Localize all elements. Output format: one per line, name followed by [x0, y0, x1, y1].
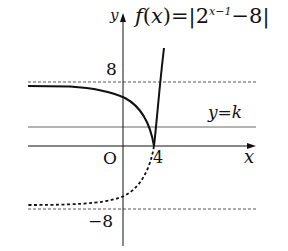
- origin-label: O: [103, 150, 117, 167]
- func-arg: x: [151, 4, 163, 28]
- y-axis-label: y: [110, 8, 118, 23]
- tick-y-neg8: −8: [88, 213, 113, 230]
- line-label-y-equals-k: y=k: [208, 104, 242, 121]
- function-graph: y f(x)=|2x−1−8| 8 y=k O 4 x −8: [0, 0, 288, 251]
- curve-right-branch: [154, 48, 164, 146]
- x-axis-label: x: [244, 148, 254, 166]
- func-exponent: x−1: [209, 5, 231, 18]
- curve-left-branch: [28, 86, 154, 146]
- graph-canvas: [0, 0, 288, 251]
- tick-x-4: 4: [153, 150, 163, 166]
- curve-dashed-reflection: [28, 146, 154, 205]
- tick-y-8: 8: [106, 61, 117, 78]
- func-base: 2: [196, 4, 209, 28]
- y-axis-arrow-icon: [120, 13, 126, 22]
- func-name: f: [135, 4, 143, 28]
- function-label: f(x)=|2x−1−8|: [135, 6, 270, 27]
- func-tail: −8: [232, 4, 263, 28]
